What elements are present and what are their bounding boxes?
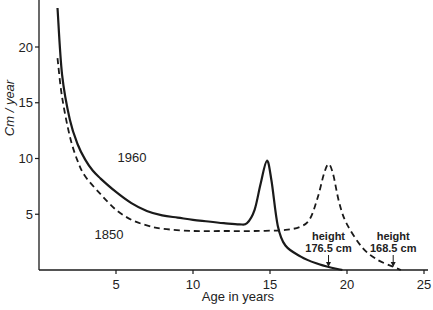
series-label-1960: 1960 xyxy=(118,150,147,165)
y-tick-label: 15 xyxy=(19,95,33,110)
annotation-line2: 168.5 cm xyxy=(370,242,417,254)
annotation-line1: height xyxy=(312,230,345,242)
annotation-line2: 176.5 cm xyxy=(305,242,352,254)
y-tick-label: 5 xyxy=(26,207,33,222)
x-tick-label: 25 xyxy=(417,277,431,292)
y-tick-label: 20 xyxy=(19,40,33,55)
annotation-height-1850: height 168.5 cm xyxy=(370,230,417,267)
y-axis-title: Cm / year xyxy=(2,79,17,136)
x-axis-title: Age in years xyxy=(202,289,275,304)
x-tick-label: 5 xyxy=(112,277,119,292)
growth-velocity-chart: 5101520 510152025 Age in years Cm / year… xyxy=(0,0,433,310)
x-tick-label: 20 xyxy=(340,277,354,292)
y-ticks: 5101520 xyxy=(19,40,39,222)
annotation-line1: height xyxy=(377,230,410,242)
x-tick-label: 10 xyxy=(186,277,200,292)
y-tick-label: 10 xyxy=(19,151,33,166)
series-label-1850: 1850 xyxy=(94,227,123,242)
